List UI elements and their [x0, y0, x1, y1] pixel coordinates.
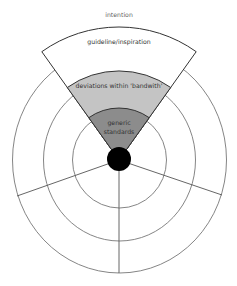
- band-label-deviations: deviations within 'bandwith': [76, 82, 163, 89]
- spoke-left: [17, 160, 119, 196]
- band-label-generic: generic: [107, 119, 131, 127]
- top-label: intention: [105, 11, 133, 18]
- band-label-standards: standards: [104, 128, 135, 135]
- intention-diagram: intention guideline/inspiration deviatio…: [0, 0, 237, 286]
- center-dot: [107, 147, 131, 171]
- spoke-right: [119, 160, 222, 195]
- band-label-guideline: guideline/inspiration: [87, 38, 150, 46]
